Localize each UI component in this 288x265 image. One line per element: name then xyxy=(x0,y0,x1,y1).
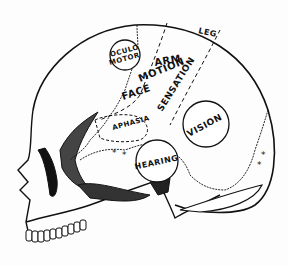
teeth xyxy=(26,220,86,242)
skull-illustration: OCULO MOTOR LEG ARM MOTION FACE SENSATIO… xyxy=(0,0,288,265)
skull-diagram: OCULO MOTOR LEG ARM MOTION FACE SENSATIO… xyxy=(0,0,288,265)
face-label: FACE xyxy=(120,82,152,102)
marker-star-2: * xyxy=(122,150,127,160)
leg-label: LEG xyxy=(198,26,218,39)
eye-socket xyxy=(38,148,57,196)
aphasia-label: APHASIA xyxy=(111,114,150,132)
marker-star-4: * xyxy=(257,160,262,170)
marker-star-3: * xyxy=(261,150,266,160)
marker-star-1: * xyxy=(112,148,117,158)
zygomatic-arch xyxy=(60,112,98,190)
